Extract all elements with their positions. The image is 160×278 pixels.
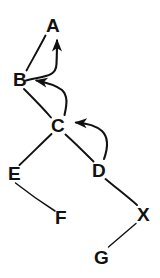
edge-b-a: [27, 36, 46, 71]
node-label-g: G: [94, 248, 109, 267]
node-label-f: F: [55, 208, 67, 227]
edge-d-x: [106, 179, 138, 205]
arrow-c-to-b: [37, 81, 67, 116]
node-label-c: C: [51, 116, 65, 135]
arrow-b-to-a: [26, 41, 57, 81]
edge-c-e: [20, 134, 52, 165]
arrow-d-to-c: [76, 123, 107, 160]
edge-e-f: [16, 183, 56, 211]
graph-svg: [0, 0, 160, 278]
node-label-a: A: [46, 16, 60, 35]
node-label-x: X: [137, 205, 150, 224]
node-label-b: B: [13, 70, 27, 89]
node-label-e: E: [8, 164, 21, 183]
edge-x-g: [109, 224, 137, 248]
node-label-d: D: [92, 161, 106, 180]
diagram-canvas: A B C D E F X G: [0, 0, 160, 278]
edge-c-d: [66, 135, 94, 162]
edge-b-c: [24, 89, 51, 118]
